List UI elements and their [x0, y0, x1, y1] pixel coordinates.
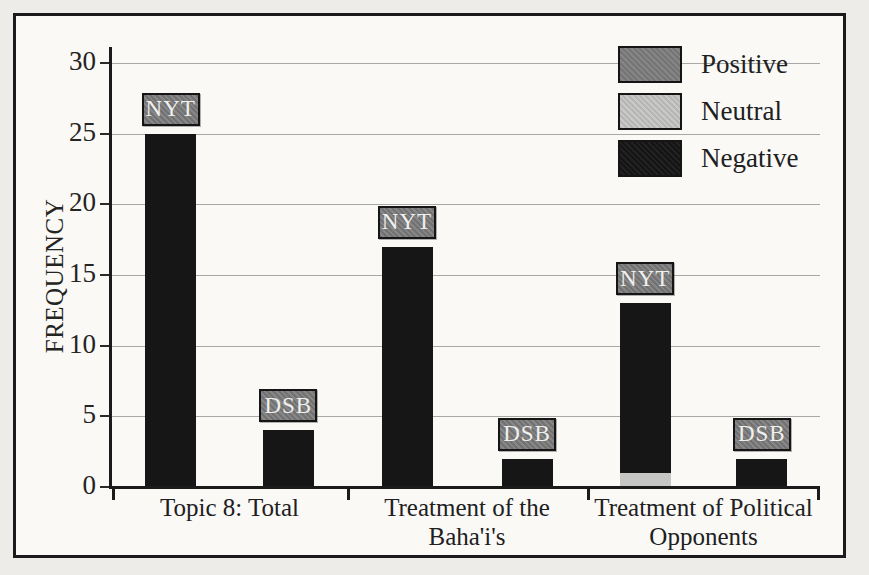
press-badge-dsb-group3: DSB [733, 418, 791, 451]
y-tick-label-30: 30 [40, 46, 96, 77]
y-tick-label-10: 10 [40, 329, 96, 360]
gridline-5 [104, 416, 820, 417]
legend-swatch-positive [618, 46, 682, 83]
category-label-3: Treatment of Political Opponents [587, 493, 821, 551]
gridline-10 [104, 346, 820, 347]
legend-label-neutral: Neutral [701, 96, 782, 127]
legend: PositiveNeutralNegative [618, 46, 798, 177]
gridline-20 [104, 204, 820, 205]
bar-nyt-group2 [382, 247, 433, 487]
legend-row-neutral: Neutral [618, 93, 798, 130]
legend-label-positive: Positive [701, 49, 788, 80]
bar-nyt-group3 [620, 303, 671, 487]
bar-segment-negative [620, 303, 671, 473]
bar-segment-negative [502, 459, 553, 487]
figure-frame: FREQUENCY 051015202530 NYTDSBNYTDSBNYTDS… [13, 13, 846, 558]
y-tick-label-0: 0 [40, 470, 96, 501]
category-label-2: Treatment of the Baha'i's [350, 493, 584, 551]
y-axis-line [109, 47, 112, 488]
gridline-15 [104, 275, 820, 276]
bar-segment-neutral [620, 473, 671, 487]
y-tick-label-5: 5 [40, 400, 96, 431]
press-badge-nyt-group1: NYT [142, 93, 200, 126]
y-tick-label-15: 15 [40, 258, 96, 289]
press-badge-nyt-group2: NYT [378, 206, 436, 239]
bar-segment-negative [145, 134, 196, 487]
y-tick-label-20: 20 [40, 188, 96, 219]
legend-label-negative: Negative [701, 143, 798, 174]
bar-dsb-group1 [263, 430, 314, 487]
x-axis-line [109, 486, 820, 489]
bar-nyt-group1 [145, 134, 196, 487]
bar-dsb-group2 [502, 459, 553, 487]
legend-row-negative: Negative [618, 140, 798, 177]
legend-row-positive: Positive [618, 46, 798, 83]
y-tick-label-25: 25 [40, 117, 96, 148]
press-badge-dsb-group1: DSB [259, 389, 317, 422]
legend-swatch-neutral [618, 93, 682, 130]
bar-dsb-group3 [736, 459, 787, 487]
category-label-1: Topic 8: Total [113, 493, 347, 522]
bar-segment-negative [736, 459, 787, 487]
bar-segment-negative [263, 430, 314, 487]
bar-segment-negative [382, 247, 433, 487]
press-badge-nyt-group3: NYT [616, 262, 674, 295]
press-badge-dsb-group2: DSB [498, 418, 556, 451]
legend-swatch-negative [618, 140, 682, 177]
